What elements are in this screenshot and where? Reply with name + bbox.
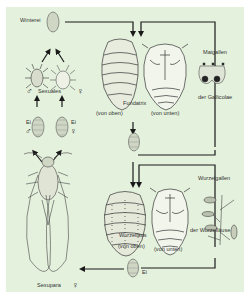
maigallen-icon: [199, 63, 225, 84]
label-der-gallicolae: der Gallicolae: [198, 95, 232, 101]
wurzelgallen-icon: [202, 195, 237, 245]
label-von-unten-2: (von unten): [154, 247, 182, 253]
male-symbol: ♂: [26, 87, 33, 96]
female-symbol-egg: ♀: [70, 127, 77, 136]
label-von-oben-1: (von oben): [96, 111, 123, 117]
phylloxera-life-cycle-diagram: [0, 0, 252, 300]
label-der-wurzellaeuse: der Wurzelläuse: [190, 228, 230, 234]
label-ei-bottom: Ei: [142, 270, 147, 276]
fundatrix-bottom-icon: [142, 44, 188, 110]
label-ei-male: Ei: [26, 120, 31, 126]
label-von-unten-1: (von unten): [151, 111, 179, 117]
label-ei-female: Ei: [71, 120, 76, 126]
label-sexupara: Sexupara: [37, 283, 61, 289]
wurzellaus-bottom-icon: [150, 188, 190, 255]
winterei-egg-icon: [47, 12, 59, 32]
label-maigallen: Maigallen: [203, 50, 227, 56]
label-winterei: Winterei: [20, 18, 41, 24]
label-wurzellaus: Wurzellaus: [119, 233, 147, 239]
sexuales-male-icon: [25, 64, 49, 88]
label-fundatrix: Fundatrix: [123, 101, 146, 107]
female-symbol-sexupara: ♀: [72, 281, 79, 290]
label-wurzelgallen: Wurzelgallen: [198, 176, 230, 182]
sexupara-icon: [24, 153, 72, 272]
label-sexuales: Sexuales: [38, 89, 61, 95]
label-von-oben-2: (von oben): [118, 244, 145, 250]
female-symbol: ♀: [77, 87, 84, 96]
male-symbol-egg: ♂: [25, 127, 32, 136]
sexuales-female-icon: [50, 65, 76, 90]
